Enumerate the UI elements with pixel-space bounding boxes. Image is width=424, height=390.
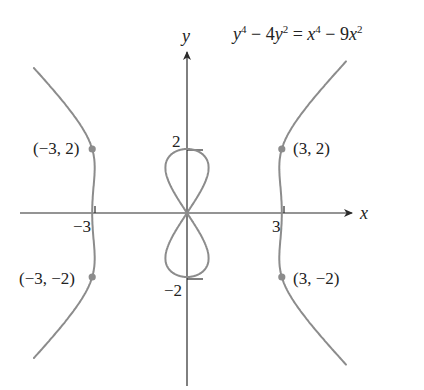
x-axis-label: x xyxy=(360,204,368,222)
point-marker-3 xyxy=(278,273,285,280)
point-label-3-2: (3, 2) xyxy=(293,140,330,157)
axes xyxy=(20,52,352,386)
equation-label: y4 − 4y2 = x4 − 9x2 xyxy=(233,24,362,45)
point-label-neg3-neg2: (−3, −2) xyxy=(19,270,75,287)
point-label-neg3-2: (−3, 2) xyxy=(33,140,79,157)
x-tick-label-neg3: −3 xyxy=(73,218,91,235)
y-tick-label-neg2: −2 xyxy=(164,282,182,299)
curve-plot xyxy=(0,0,424,390)
point-label-3-neg2: (3, −2) xyxy=(293,270,339,287)
point-marker-0 xyxy=(89,145,96,152)
x-tick-label-3: 3 xyxy=(272,218,281,235)
point-marker-1 xyxy=(278,145,285,152)
y-axis-label: y xyxy=(182,27,190,45)
y-tick-label-2: 2 xyxy=(172,133,181,150)
point-marker-2 xyxy=(89,273,96,280)
